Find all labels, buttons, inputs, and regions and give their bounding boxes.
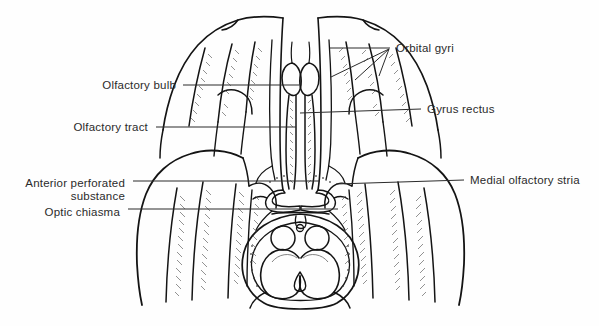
optic-tract-right [329, 211, 345, 230]
label-anterior-perforated-substance: Anterior perforated [25, 177, 125, 189]
olfactory-tract-left-outline [286, 95, 289, 189]
olfactory-tract-left-outline-2 [294, 95, 296, 189]
figure-canvas: Olfactory bulb Olfactory tract Anterior … [0, 0, 599, 326]
temporal-pole-left-inner [243, 158, 249, 186]
cerebral-peduncle-left [261, 250, 301, 299]
anterior-perforated-substance-right [329, 166, 345, 183]
label-olfactory-tract: Olfactory tract [73, 121, 148, 133]
anterior-perforated-substance-left [256, 166, 272, 183]
gyrus-rectus-left-border [270, 40, 275, 180]
temporal-lobe-right-outline [358, 151, 464, 305]
leader-medial-olfactory-stria [336, 180, 464, 184]
leader-gyrus-rectus [300, 109, 421, 113]
hatch-olfactory-tract-left [290, 100, 293, 183]
frontal-right-lateral-edge [438, 130, 441, 158]
temporal-sulcus-right-1 [424, 188, 435, 302]
olfactory-sulcus-left [291, 42, 292, 63]
label-optic-chiasma: Optic chiasma [45, 206, 121, 218]
uncus-right [325, 183, 352, 208]
orbital-sulcus-right-4 [355, 112, 360, 154]
olfactory-bulb-left-outline [282, 63, 301, 96]
olfactory-tract-right-outline [312, 95, 315, 189]
gyrus-rectus-right-border [326, 40, 331, 180]
temporal-pole-right-inner [352, 158, 358, 186]
uncus-left [249, 183, 276, 208]
temporal-sulcus-right-2 [398, 182, 409, 300]
mammillary-body-right [305, 226, 329, 250]
optic-tract-left [256, 211, 272, 230]
brain-outline-group [137, 17, 464, 309]
temporal-lobe-left-outline [137, 151, 243, 305]
frontal-left-lateral-edge [160, 130, 163, 158]
label-medial-olfactory-stria: Medial olfactory stria [470, 174, 580, 186]
olfactory-sulcus-right [309, 42, 310, 63]
olfactory-tract-right-outline-2 [305, 95, 307, 189]
orbital-sulcus-left-2 [218, 44, 232, 122]
cerebral-peduncle-right [300, 250, 340, 299]
label-anterior-perforated-substance-line2: substance [71, 190, 125, 202]
temporal-sulcus-left-2 [192, 182, 203, 300]
orbital-sulcus-right-1 [396, 48, 412, 126]
brain-inferior-view-diagram: Olfactory bulb Olfactory tract Anterior … [0, 0, 599, 326]
hatch-peduncle-arcs [272, 255, 328, 262]
longitudinal-fissure-right-wall [318, 18, 321, 190]
orbital-sulcus-left-1 [189, 48, 205, 126]
optic-nerve-left [253, 197, 267, 199]
label-gyrus-rectus: Gyrus rectus [427, 103, 495, 115]
label-olfactory-bulb: Olfactory bulb [102, 79, 176, 91]
label-orbital-gyri: Orbital gyri [396, 42, 454, 54]
temporal-sulcus-left-1 [166, 188, 177, 302]
longitudinal-fissure-left-wall [280, 18, 283, 190]
olfactory-bulb-right-outline [300, 63, 319, 96]
optic-nerve-right [334, 197, 348, 199]
mammillary-body-left [271, 226, 295, 250]
orbital-sulcus-left-4 [241, 112, 246, 154]
